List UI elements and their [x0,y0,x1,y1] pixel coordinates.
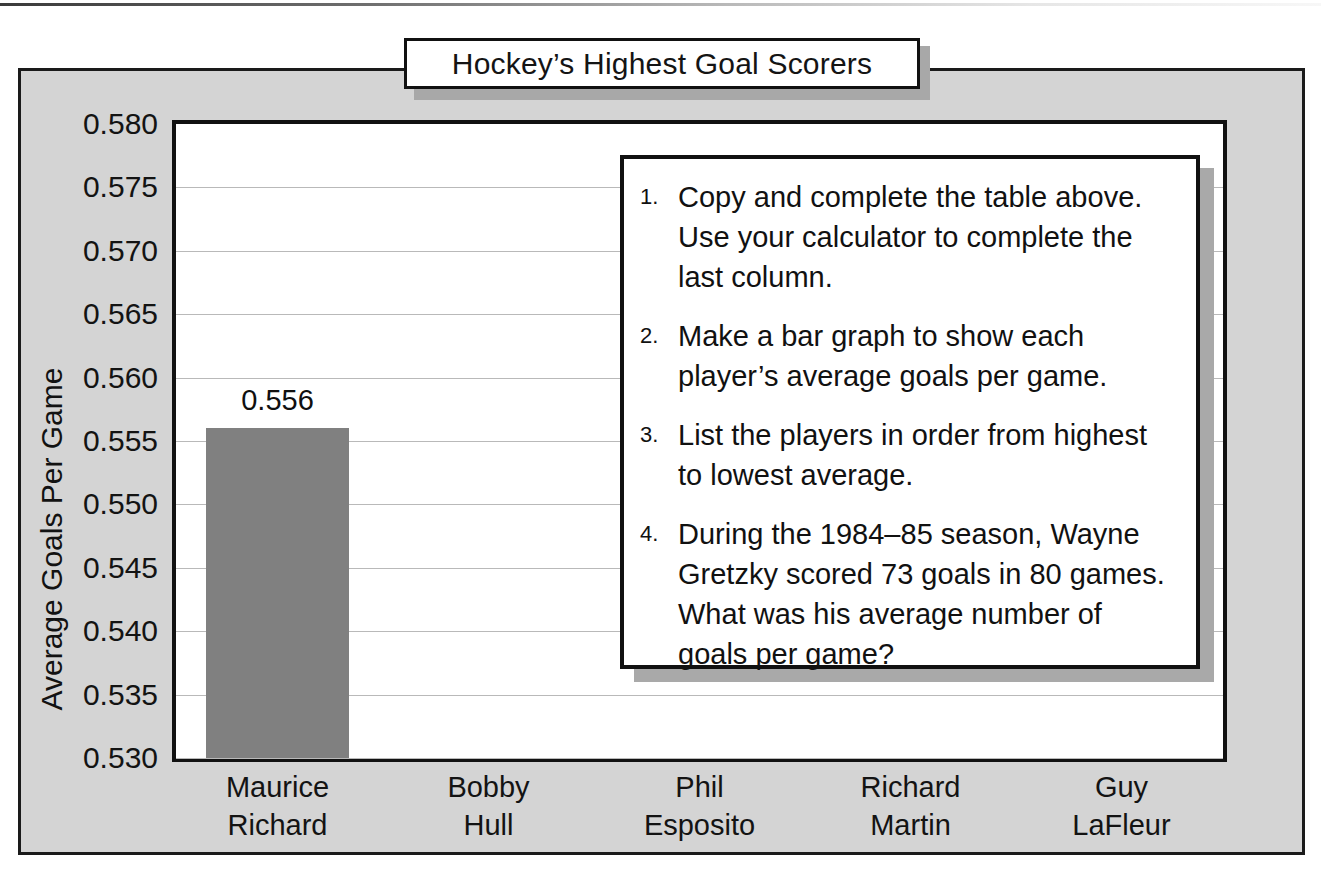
y-tick-label: 0.535 [22,678,172,712]
y-tick-label: 0.565 [22,297,172,331]
player-last-name: Martin [805,806,1016,844]
task-text: Make a bar graph to show each player’s a… [678,316,1176,396]
y-tick-label: 0.550 [22,487,172,521]
player-first-name: Bobby [383,768,594,806]
player-first-name: Richard [805,768,1016,806]
x-tick-label: MauriceRichard [172,768,383,848]
player-last-name: Hull [383,806,594,844]
x-tick-label: GuyLaFleur [1016,768,1227,848]
figure-page: Hockey’s Highest Goal Scorers Average Go… [0,0,1321,883]
task-item: 1.Copy and complete the table above. Use… [640,177,1176,297]
y-tick-label: 0.580 [22,107,172,141]
task-item: 4.During the 1984–85 season, Wayne Gretz… [640,514,1176,674]
x-axis-labels: MauriceRichardBobbyHullPhilEspositoRicha… [172,768,1227,848]
y-axis-labels: Average Goals Per Game 0.5800.5750.5700.… [10,120,172,762]
task-text: Copy and complete the table above. Use y… [678,177,1176,297]
x-tick-label: BobbyHull [383,768,594,848]
y-tick-label: 0.530 [22,741,172,775]
task-number: 3. [640,415,678,455]
y-tick-label: 0.570 [22,234,172,268]
gridline [176,758,1223,759]
player-last-name: Richard [172,806,383,844]
y-tick-label: 0.545 [22,551,172,585]
player-first-name: Maurice [172,768,383,806]
x-tick-label: PhilEsposito [594,768,805,848]
player-first-name: Phil [594,768,805,806]
x-tick-label: RichardMartin [805,768,1016,848]
task-item: 2.Make a bar graph to show each player’s… [640,316,1176,396]
task-text: During the 1984–85 season, Wayne Gretzky… [678,514,1176,674]
instructions-callout: 1.Copy and complete the table above. Use… [620,155,1200,669]
y-tick-label: 0.540 [22,614,172,648]
player-last-name: LaFleur [1016,806,1227,844]
task-number: 2. [640,316,678,356]
player-first-name: Guy [1016,768,1227,806]
player-last-name: Esposito [594,806,805,844]
y-tick-label: 0.575 [22,170,172,204]
y-tick-label: 0.555 [22,424,172,458]
task-item: 3.List the players in order from highest… [640,415,1176,495]
task-number: 1. [640,177,678,217]
title-box: Hockey’s Highest Goal Scorers [404,38,920,89]
page-title: Hockey’s Highest Goal Scorers [452,47,872,81]
task-number: 4. [640,514,678,554]
task-text: List the players in order from highest t… [678,415,1176,495]
gridline [176,695,1223,696]
y-tick-label: 0.560 [22,361,172,395]
scan-artifact-line [0,3,1321,6]
task-list: 1.Copy and complete the table above. Use… [640,177,1176,674]
